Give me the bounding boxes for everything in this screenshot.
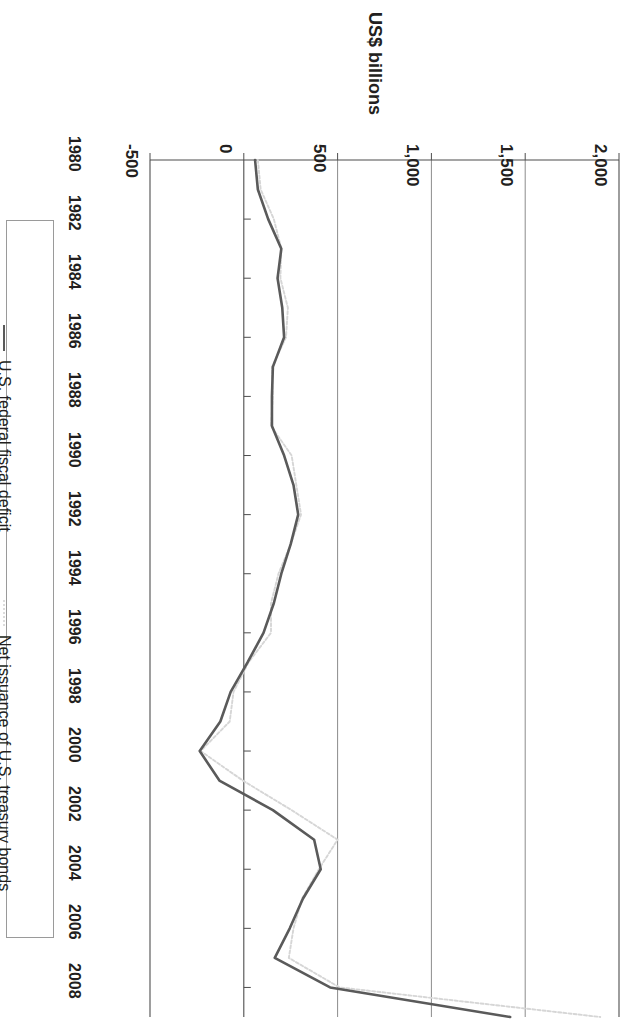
value-tick-label-1000: 1,000 bbox=[402, 144, 422, 187]
legend bbox=[6, 220, 54, 938]
year-tick-label-1980: 1980 bbox=[65, 136, 83, 172]
year-tick-label-2000: 2000 bbox=[65, 727, 83, 763]
value-tick-label--500: -500 bbox=[121, 144, 141, 178]
year-tick-label-1988: 1988 bbox=[65, 372, 83, 408]
year-tick-label-1996: 1996 bbox=[65, 609, 83, 645]
year-tick-label-1990: 1990 bbox=[65, 432, 83, 468]
value-tick-label-500: 500 bbox=[309, 144, 329, 172]
legend-label: U.S. federal fiscal deficit bbox=[0, 360, 13, 532]
value-tick-label-0: 0 bbox=[215, 144, 235, 153]
year-tick-label-1982: 1982 bbox=[65, 195, 83, 231]
chart-figure: 2,0001,5001,0005000-500 1980198219841986… bbox=[0, 0, 630, 1030]
chart-canvas: 2,0001,5001,0005000-500 1980198219841986… bbox=[0, 0, 630, 1030]
year-tick-label-2004: 2004 bbox=[65, 845, 83, 881]
year-tick-label-2006: 2006 bbox=[65, 904, 83, 940]
series-line-net-issuance bbox=[201, 160, 601, 1017]
value-axis-title: US$ billions bbox=[364, 12, 385, 115]
legend-label: Net issuance of U.S. treasury bonds bbox=[0, 635, 13, 891]
legend-entry-fiscal-deficit: U.S. federal fiscal deficit bbox=[0, 325, 13, 532]
series-line-fiscal-deficit bbox=[200, 160, 510, 1017]
value-tick-label-2000: 2,000 bbox=[590, 144, 610, 187]
legend-swatch-solid-icon bbox=[3, 325, 5, 351]
legend-entry-net-issuance: Net issuance of U.S. treasury bonds bbox=[0, 600, 13, 891]
year-tick-label-1984: 1984 bbox=[65, 254, 83, 290]
year-tick-label-1994: 1994 bbox=[65, 550, 83, 586]
axis-ticks bbox=[150, 153, 619, 987]
year-tick-label-1998: 1998 bbox=[65, 668, 83, 704]
year-tick-label-2008: 2008 bbox=[65, 963, 83, 999]
year-tick-label-1992: 1992 bbox=[65, 491, 83, 527]
legend-swatch-dotted-icon bbox=[3, 600, 5, 626]
value-tick-label-1500: 1,500 bbox=[496, 144, 516, 187]
year-tick-label-2002: 2002 bbox=[65, 786, 83, 822]
gridlines bbox=[150, 160, 619, 1017]
year-tick-label-1986: 1986 bbox=[65, 313, 83, 349]
